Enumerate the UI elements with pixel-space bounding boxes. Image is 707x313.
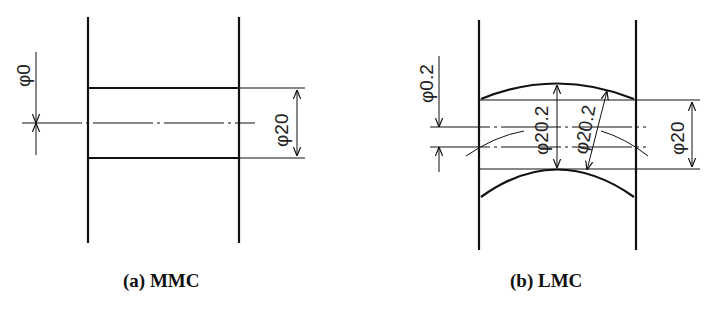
dim-phi202-slanted-label: φ20.2	[570, 103, 599, 155]
dim-phi20-label: φ20	[667, 122, 688, 155]
dim-phi202-vertical-label: φ20.2	[531, 106, 552, 155]
dim-phi02-label: φ0.2	[416, 64, 437, 103]
dim-phi20-label: φ20	[271, 114, 292, 147]
caption-a: (a) MMC	[123, 270, 200, 292]
caption-a-label: MMC	[150, 270, 200, 291]
tolerance-diagram: φ0 φ20 φ0.2 φ20.2 φ20.2 φ20	[0, 0, 707, 313]
panel-b-lmc	[430, 20, 700, 250]
caption-b: (b) LMC	[510, 270, 582, 292]
caption-b-prefix: (b)	[510, 270, 533, 291]
panel-a-mmc	[22, 17, 305, 243]
caption-b-label: LMC	[538, 270, 582, 291]
shifted-arc-right	[601, 131, 648, 156]
caption-a-prefix: (a)	[123, 270, 145, 291]
dim-phi0-label: φ0	[13, 64, 34, 87]
bottom-arc	[481, 170, 634, 198]
shifted-arc-left	[466, 131, 524, 156]
